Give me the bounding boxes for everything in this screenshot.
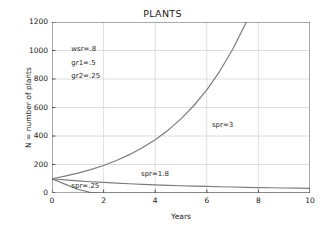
chart-title: PLANTS — [0, 8, 325, 19]
y-tick-label: 800 — [16, 75, 48, 83]
series-label: spr=1.8 — [141, 170, 169, 178]
x-tick-label: 8 — [243, 196, 273, 205]
x-axis-tick-labels: 0246810 — [52, 196, 310, 208]
chart-figure: PLANTS N = number of plants 020040060080… — [0, 0, 325, 229]
x-tick-label: 2 — [89, 196, 119, 205]
plot-area: wsr=.8gr1=.5gr2=.25spr=3spr=1.8spr=.25 — [52, 22, 310, 193]
parameter-annotation: gr2=.25 — [71, 72, 100, 80]
y-tick-label: 1000 — [16, 47, 48, 55]
x-tick-label: 4 — [140, 196, 170, 205]
y-axis-tick-labels: 020040060080010001200 — [14, 22, 48, 193]
y-tick-label: 200 — [16, 161, 48, 169]
y-tick-label: 1200 — [16, 18, 48, 26]
parameter-annotation: gr1=.5 — [71, 59, 95, 67]
y-tick-label: 400 — [16, 132, 48, 140]
series-label: spr=3 — [212, 121, 233, 129]
y-tick-label: 600 — [16, 104, 48, 112]
x-tick-label: 0 — [37, 196, 67, 205]
x-axis-label: Years — [52, 212, 310, 221]
x-tick-label: 6 — [192, 196, 222, 205]
x-tick-label: 10 — [295, 196, 325, 205]
parameter-annotation: wsr=.8 — [71, 45, 96, 53]
series-label: spr=.25 — [71, 182, 99, 190]
